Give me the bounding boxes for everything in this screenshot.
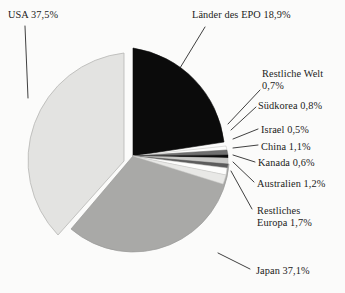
slice-label-japan: Japan 37,1% [256, 265, 345, 277]
leader-line-suedkorea [231, 107, 256, 130]
leader-line-australien [233, 162, 254, 182]
leader-line-china [233, 145, 258, 148]
leader-line-usa [25, 26, 28, 98]
slice-label-suedkorea: Südkorea 0,8% [258, 100, 345, 112]
leader-line-israel [233, 129, 258, 139]
slice-label-china: China 1,1% [261, 141, 345, 153]
slice-label-kanada: Kanada 0,6% [258, 157, 345, 169]
slice-label-usa: USA 37,5% [8, 9, 118, 21]
leader-line-epo [180, 27, 205, 68]
pie-slice-epo[interactable] [133, 48, 224, 156]
leader-line-japan [218, 253, 250, 269]
slice-label-israel: Israel 0,5% [261, 124, 345, 136]
leader-line-restliche-welt [228, 90, 260, 124]
slice-label-restliches-europa: Restliches Europa 1,7% [257, 205, 343, 229]
slice-label-epo: Länder des EPO 18,9% [192, 9, 342, 21]
pie-chart: USA 37,5% Länder des EPO 18,9% Restliche… [0, 0, 345, 293]
leader-line-kanada [233, 155, 255, 162]
slice-label-restliche-welt: Restliche Welt 0,7% [262, 68, 344, 92]
slice-label-australien: Australien 1,2% [257, 178, 345, 190]
